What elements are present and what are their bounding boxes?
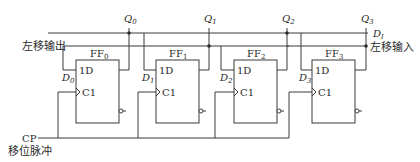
clk2-wire <box>215 92 234 138</box>
ff1-clk-label: C1 <box>162 87 176 98</box>
ff2-clk-label: C1 <box>240 87 254 98</box>
ff0-d-input-label: 1D <box>79 65 93 76</box>
ff2-d-input-label: 1D <box>237 65 251 76</box>
left-shift-input-label: 左移输入 <box>370 40 414 54</box>
d0-label: D0 <box>61 72 75 85</box>
ff3-label: FF3 <box>325 48 343 61</box>
q0-label: Q0 <box>124 13 137 26</box>
d3-wire <box>301 33 312 70</box>
ff1-label: FF1 <box>169 48 187 61</box>
d1-wire <box>144 33 156 70</box>
shift-register-diagram: FF0 FF1 FF2 FF3 1D 1D 1D 1D C1 C1 C1 C1 … <box>0 0 420 162</box>
serial-input-label: DI <box>372 28 384 41</box>
d3-label: D3 <box>298 72 312 85</box>
left-shift-output-label: 左移输出 <box>22 39 66 53</box>
clock-caption: 移位脉冲 <box>8 144 52 158</box>
ff0-label: FF0 <box>90 48 108 61</box>
q1-label: Q1 <box>204 13 217 26</box>
q2-label: Q2 <box>282 13 295 26</box>
clk3-wire <box>289 92 312 138</box>
ff3-clk-label: C1 <box>318 87 332 98</box>
clk0-wire <box>58 92 76 138</box>
d1-label: D1 <box>141 72 155 85</box>
ff1-d-input-label: 1D <box>159 65 173 76</box>
clock-label: CP <box>22 133 37 144</box>
q3-junction <box>364 44 368 48</box>
clk1-wire <box>138 92 156 138</box>
q2-junction <box>285 31 289 35</box>
ff0-clk-label: C1 <box>82 87 96 98</box>
d2-wire <box>221 46 234 70</box>
q3-label: Q3 <box>361 13 374 26</box>
ff3-d-input-label: 1D <box>315 65 329 76</box>
q0-junction <box>127 31 131 35</box>
d2-label: D2 <box>219 72 233 85</box>
ff2-label: FF2 <box>247 48 265 61</box>
